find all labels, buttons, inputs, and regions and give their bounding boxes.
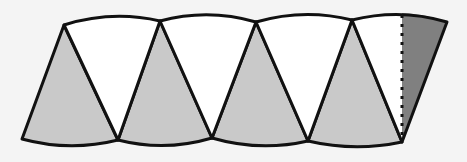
cone-net-diagram [0,0,467,162]
sector-strip [0,0,467,162]
